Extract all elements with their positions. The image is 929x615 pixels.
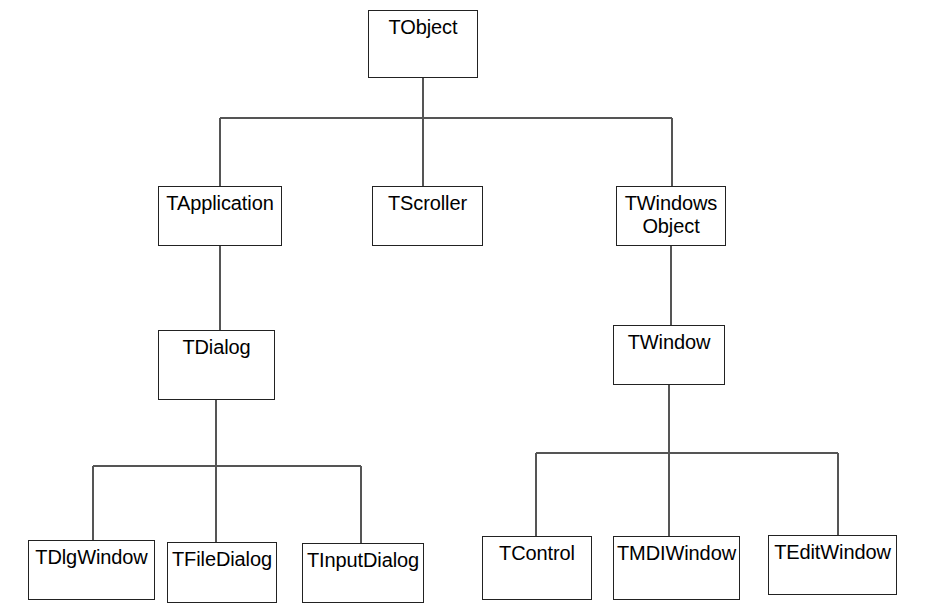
class-node-label: TDialog xyxy=(182,336,250,359)
class-node-tdlgwindow[interactable]: TDlgWindow xyxy=(28,540,155,600)
class-node-label: TScroller xyxy=(388,192,467,215)
class-node-twindow[interactable]: TWindow xyxy=(613,325,725,385)
class-node-label: TObject xyxy=(389,16,458,39)
class-node-label: TControl xyxy=(499,542,575,565)
class-node-label: TMDIWindow xyxy=(617,542,736,565)
connector-layer xyxy=(0,0,929,615)
class-node-label: TFileDialog xyxy=(172,548,272,571)
class-node-tinputdialog[interactable]: TInputDialog xyxy=(302,543,424,603)
class-node-label: TWindow xyxy=(628,331,711,354)
class-node-tmdiwindow[interactable]: TMDIWindow xyxy=(613,536,740,600)
class-node-tcontrol[interactable]: TControl xyxy=(482,536,592,600)
class-node-twindowsobject[interactable]: TWindows Object xyxy=(616,186,726,246)
class-node-teditwindow[interactable]: TEditWindow xyxy=(768,535,897,595)
class-node-tfiledialog[interactable]: TFileDialog xyxy=(167,542,277,603)
class-node-label: TDlgWindow xyxy=(35,546,147,569)
class-node-tscroller[interactable]: TScroller xyxy=(372,186,483,246)
class-node-tdialog[interactable]: TDialog xyxy=(158,330,275,400)
class-hierarchy-diagram: TObjectTApplicationTScrollerTWindows Obj… xyxy=(0,0,929,615)
class-node-tapplication[interactable]: TApplication xyxy=(158,186,282,246)
class-node-label: TInputDialog xyxy=(307,549,419,572)
class-node-tobject[interactable]: TObject xyxy=(368,10,478,78)
class-node-label: TEditWindow xyxy=(774,541,891,564)
class-node-label: TWindows Object xyxy=(625,192,718,237)
class-node-label: TApplication xyxy=(166,192,273,215)
